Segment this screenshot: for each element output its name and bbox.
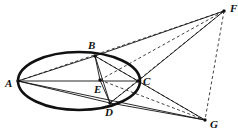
vertex-marker-a [16,79,19,82]
point-label-e: E [94,84,101,95]
point-label-a: A [5,78,12,89]
point-label-f: F [230,3,237,14]
point-label-b: B [88,40,95,51]
dashed-segment-e-g [100,80,205,120]
vertex-marker-f [222,9,225,12]
dashed-segment-f-g [205,11,224,120]
solid-segment-c-f [138,11,224,81]
solid-segment-b-f [95,11,224,56]
geometry-canvas [0,0,238,140]
vertex-marker-g [203,118,206,121]
vertex-marker-e [98,78,101,81]
vertex-marker-c [136,79,139,82]
point-label-d: D [105,107,113,118]
point-label-c: C [143,76,150,87]
dashed-lines-group [18,11,224,120]
solid-lines-group [18,11,224,120]
vertex-marker-d [108,101,111,104]
vertex-marker-b [93,54,96,57]
point-label-g: G [210,119,218,130]
geometry-figure: ABCDEFG [0,0,238,140]
solid-segment-a-b [18,56,95,81]
